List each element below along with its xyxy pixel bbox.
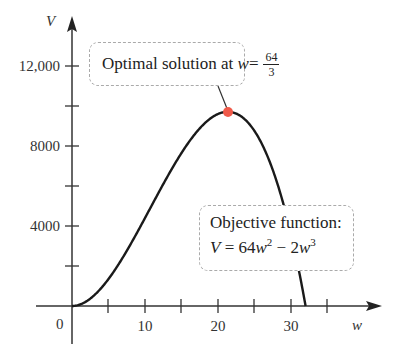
formula-w2: w — [299, 238, 310, 257]
optimal-prefix: Optimal solution at — [102, 54, 233, 74]
optimal-var: w — [238, 54, 249, 74]
y-tick-label-8000: 8000 — [30, 138, 60, 154]
optimal-point-marker — [223, 107, 233, 117]
formula-exp3: 3 — [310, 236, 316, 248]
x-tick-label-10: 10 — [138, 318, 153, 334]
x-axis-label: w — [352, 317, 362, 333]
fraction-denominator: 3 — [268, 66, 274, 78]
fraction-64-3: 64 3 — [263, 51, 279, 78]
objective-title: Objective function: — [210, 210, 343, 235]
optimal-eq: = — [249, 54, 259, 74]
y-tick-label-12000: 12,000 — [19, 58, 60, 74]
fraction-numerator: 64 — [265, 51, 277, 63]
x-tick-label-20: 20 — [211, 318, 226, 334]
origin-label: 0 — [56, 316, 64, 332]
formula-minus: − 2 — [272, 238, 299, 257]
formula-w1: w — [255, 238, 266, 257]
y-axis-label: V — [46, 13, 57, 29]
formula-V: V — [210, 238, 220, 257]
objective-formula: V = 64w2 − 2w3 — [210, 235, 343, 260]
formula-eq: = 64 — [220, 238, 255, 257]
y-tick-label-4000: 4000 — [30, 218, 60, 234]
x-tick-label-30: 30 — [284, 318, 299, 334]
objective-function-callout: Objective function: V = 64w2 − 2w3 — [199, 205, 354, 271]
optimal-solution-callout: Optimal solution at w = 64 3 — [89, 42, 245, 86]
